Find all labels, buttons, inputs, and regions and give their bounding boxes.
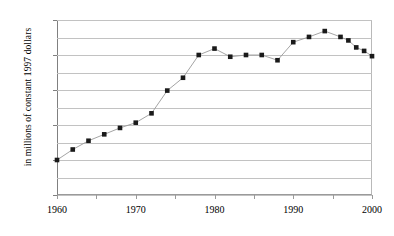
data-point (86, 138, 91, 143)
x-tick-mark (136, 195, 137, 199)
x-tick-label: 2000 (350, 204, 394, 215)
x-tick-label: 1970 (114, 204, 158, 215)
x-tick-mark (293, 195, 294, 199)
x-tick-mark (215, 195, 216, 199)
x-tick-mark (333, 195, 334, 199)
data-point (275, 58, 280, 63)
data-point (149, 111, 154, 116)
x-tick-mark (96, 195, 97, 199)
data-point (346, 38, 351, 43)
data-point (354, 45, 359, 50)
data-point (181, 75, 186, 80)
data-point (259, 53, 264, 58)
x-tick-mark (175, 195, 176, 199)
data-point (118, 126, 123, 131)
data-point (165, 88, 170, 93)
data-point (196, 53, 201, 58)
data-point (291, 40, 296, 45)
data-point (228, 54, 233, 59)
data-point (244, 53, 249, 58)
x-tick-label: 1990 (271, 204, 315, 215)
x-tick-label: 1980 (193, 204, 237, 215)
line-chart: in millions of constant 1997 dollars 030… (0, 0, 394, 236)
data-point (307, 35, 312, 40)
x-tick-mark (372, 195, 373, 199)
y-axis-title: in millions of constant 1997 dollars (23, 7, 33, 187)
data-point (362, 49, 367, 54)
series-markers (55, 29, 375, 163)
data-point (338, 35, 343, 40)
data-point (370, 54, 375, 59)
x-tick-label: 1960 (35, 204, 79, 215)
data-series (57, 20, 372, 195)
data-point (212, 46, 217, 51)
x-tick-mark (57, 195, 58, 199)
x-tick-mark (254, 195, 255, 199)
plot-wrapper: 030060090012001500 19601970198019902000 (57, 20, 372, 195)
data-point (133, 120, 138, 125)
data-point (70, 147, 75, 152)
data-point (322, 29, 327, 34)
data-point (55, 158, 60, 163)
data-point (102, 132, 107, 137)
